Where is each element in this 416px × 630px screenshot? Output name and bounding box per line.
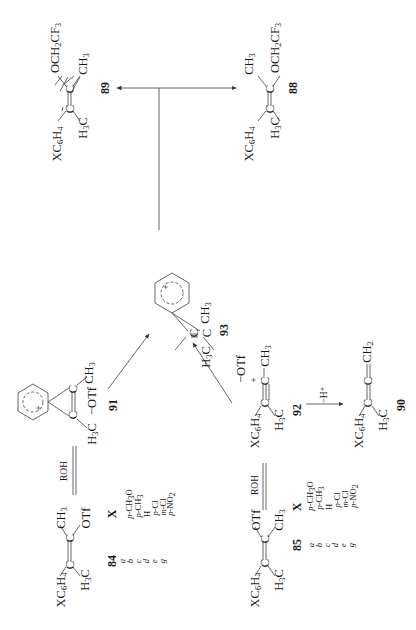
ring-91 (18, 384, 48, 420)
ring-93 (155, 273, 189, 313)
table-85-x-g: p-NO2 (349, 484, 360, 508)
compound-number-89: 89 (99, 82, 111, 94)
c91-methyl-b: CH3 (83, 362, 97, 384)
compound-number-90: 90 (395, 399, 407, 411)
c89-ether: OCH2CF3 (49, 23, 63, 73)
c88-ether: OCH2CF3 (269, 23, 283, 73)
c92-aryl: XC6H4 (249, 414, 263, 449)
c84-triflate: OTf (80, 508, 93, 529)
c89-carbon-2: C (64, 85, 77, 93)
c92-methyl-a: H3C (273, 409, 287, 431)
c85-aryl: XC6H4 (249, 573, 263, 608)
c91-counterion: −OTf (86, 387, 99, 415)
c84-carbon-2: C (64, 534, 77, 542)
c89-methyl-a: H3C (77, 117, 91, 139)
c93-carbon-1: C (188, 329, 201, 337)
c93-methyl-b: CH3 (199, 302, 213, 324)
compound-number-92: 92 (291, 404, 303, 416)
c88-methyl-a: H3C (269, 117, 283, 139)
c85-carbon-2: C (259, 535, 272, 543)
c85-carbon-1: C (259, 559, 272, 567)
c90-terminal: CH2 (361, 341, 375, 363)
c88-aryl: XC6H4 (243, 127, 257, 162)
c93-carbon-2: C (201, 329, 214, 337)
compound-number-93: 93 (218, 324, 230, 336)
c88-methyl-b: CH3 (243, 53, 257, 75)
c85-triflate: OTf (250, 510, 263, 531)
c85-methyl-a: H3C (273, 569, 287, 591)
c84-aryl: XC6H4 (55, 573, 69, 608)
c93-plus-charge: + (162, 284, 172, 289)
c92-carbon-1: C (259, 399, 272, 407)
compound-number-91: 91 (107, 399, 119, 411)
c89-carbon-1: C (64, 105, 77, 113)
c93-methyl-a: H3C (200, 346, 214, 368)
table-84-x-g: p-NO2 (166, 492, 177, 516)
c92-methyl-b: CH3 (259, 345, 273, 367)
table-84-key-g: g (158, 559, 167, 563)
c91-methyl-a: H3C (86, 423, 100, 445)
roh-reagent-84: ROH (60, 461, 70, 481)
compound-number-85: 85 (291, 539, 303, 551)
c84-methyl-a: H3C (79, 569, 93, 591)
table-85-header-x: X (291, 503, 303, 512)
c88-carbon-1: C (264, 105, 277, 113)
c91-plus-charge: + (35, 405, 45, 410)
deprotonation-reagent: −H⁺ (320, 386, 330, 403)
c92-counterion: −OTf (235, 355, 248, 383)
compound-number-88: 88 (287, 82, 299, 94)
c84-carbon-1: C (64, 561, 77, 569)
c89-methyl-b: CH3 (77, 53, 91, 75)
c92-carbon-2: C (259, 377, 272, 385)
c85-methyl-b: CH3 (273, 509, 287, 531)
roh-reagent-85: ROH (251, 475, 261, 495)
c91-carbon-1: C (67, 385, 80, 393)
c89-aryl: XC6H4 (51, 127, 65, 162)
c91-carbon-2: C (67, 411, 80, 419)
c90-methyl-a: H3C (377, 409, 391, 431)
c90-carbon-2: C (362, 377, 375, 385)
arrow-91-to-93 (108, 334, 149, 389)
table-84-header-x: X (106, 510, 118, 519)
table-85-key-g: g (347, 543, 356, 547)
c84-methyl-b: CH3 (55, 507, 69, 529)
c90-aryl: XC6H4 (353, 414, 367, 449)
c90-carbon-1: C (362, 399, 375, 407)
c88-carbon-2: C (264, 85, 277, 93)
